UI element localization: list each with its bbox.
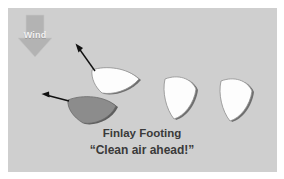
- diagram-canvas: Wind Finlay Footing “Clean air ahead!”: [0, 0, 284, 179]
- course-arrow-lower-left: [42, 92, 70, 102]
- wind-arrow-icon: [18, 15, 52, 57]
- caption-quote: “Clean air ahead!”: [0, 143, 284, 157]
- boat-far-right: [220, 79, 254, 122]
- boat-middle-right: [164, 77, 198, 120]
- boat-upper-left: [92, 68, 141, 95]
- course-arrow-upper-left: [76, 44, 96, 72]
- caption-sailor-name: Finlay Footing: [0, 127, 284, 139]
- boat-lower-left: [68, 97, 118, 125]
